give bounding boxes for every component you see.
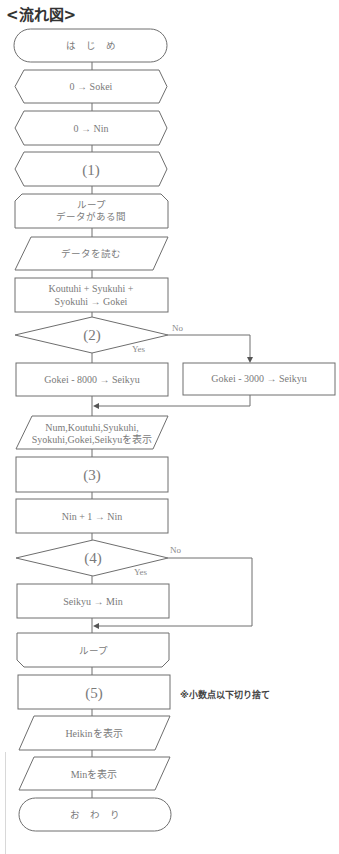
display-record-output: Num,Koutuhi,Syukuhi, Syokuhi,Gokei,Seiky… xyxy=(16,416,168,449)
blank-1-label: (1) xyxy=(82,162,100,179)
blank-5-process: (5) xyxy=(18,675,170,709)
set-min-label: Seikyu → Min xyxy=(63,596,122,607)
blank-2-yes-label: Yes xyxy=(132,344,146,354)
seikyu-8000-process: Gokei - 8000 → Seikyu xyxy=(16,363,168,396)
init-nin-preparation: 0 → Nin xyxy=(15,111,167,145)
blank-4-no-label: No xyxy=(170,545,181,555)
blank-2-decision: (2) No Yes xyxy=(15,317,183,354)
loop-start-line2: データがある間 xyxy=(56,211,126,222)
read-data-label: データを読む xyxy=(61,248,121,259)
display-heikin-output: Heikinを表示 xyxy=(19,716,170,750)
init-nin-label: 0 → Nin xyxy=(74,123,109,134)
seikyu-3000-label: Gokei - 3000 → Seikyu xyxy=(211,373,307,384)
end-terminal: お わ り xyxy=(19,798,171,831)
blank-1-preparation: (1) xyxy=(15,152,167,186)
init-sokei-label: 0 → Sokei xyxy=(70,81,113,92)
loop-start: ループ データがある間 xyxy=(15,194,168,228)
loop-end: ループ xyxy=(17,633,169,667)
blank-4-yes-label: Yes xyxy=(134,567,148,577)
blank-3-process: (3) xyxy=(16,457,168,492)
display-min-label: Minを表示 xyxy=(71,768,118,780)
flowchart: <流れ図> は じ め 0 → So xyxy=(0,0,339,854)
sum-gokei-process: Koutuhi + Syukuhi + Syokuhi → Gokei xyxy=(15,278,168,312)
blank-4-label: (4) xyxy=(84,550,102,567)
inc-nin-label: Nin + 1 → Nin xyxy=(62,511,123,522)
loop-end-label: ループ xyxy=(79,645,108,656)
blank-5-label: (5) xyxy=(85,685,103,702)
sum-gokei-line1: Koutuhi + Syukuhi + xyxy=(49,283,134,294)
truncation-note: ※小数点以下切り捨て xyxy=(180,689,270,700)
init-sokei-preparation: 0 → Sokei xyxy=(15,70,167,103)
sum-gokei-line2: Syokuhi → Gokei xyxy=(55,296,128,307)
seikyu-3000-process: Gokei - 3000 → Seikyu xyxy=(183,363,335,395)
set-min-process: Seikyu → Min xyxy=(17,584,169,618)
blank-4-decision: (4) No Yes xyxy=(16,540,181,577)
display-record-line2: Syokuhi,Gokei,Seikyuを表示 xyxy=(32,433,153,445)
display-min-output: Minを表示 xyxy=(19,757,170,790)
flowchart-title: <流れ図> xyxy=(6,6,76,24)
end-label: お わ り xyxy=(70,809,120,820)
blank-2-label: (2) xyxy=(83,327,101,344)
display-record-line1: Num,Koutuhi,Syukuhi, xyxy=(45,422,139,433)
display-heikin-label: Heikinを表示 xyxy=(65,727,122,739)
read-data-input: データを読む xyxy=(15,237,168,270)
loop-start-line1: ループ xyxy=(77,199,106,210)
blank-3-label: (3) xyxy=(83,467,101,484)
start-label: は じ め xyxy=(66,40,116,51)
inc-nin-process: Nin + 1 → Nin xyxy=(16,499,168,533)
blank-2-no-label: No xyxy=(172,323,183,333)
start-terminal: は じ め xyxy=(14,29,167,62)
seikyu-8000-label: Gokei - 8000 → Seikyu xyxy=(44,374,140,385)
